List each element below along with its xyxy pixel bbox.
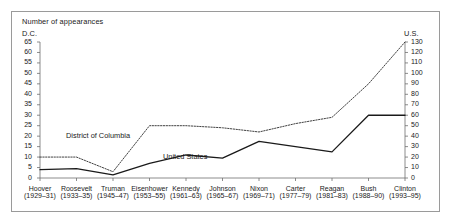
- series-label-dc: District of Columbia: [66, 131, 130, 140]
- chart-figure: Number of appearances D.C. U.S. District…: [0, 0, 451, 223]
- right-tick-label: 80: [411, 90, 431, 97]
- left-tick-label: 50: [12, 69, 32, 76]
- x-axis-label-years: (1993–95): [377, 192, 433, 199]
- right-tick-label: 90: [411, 79, 431, 86]
- x-axis-label-name: Carter: [286, 185, 305, 192]
- right-tick-label: 120: [411, 48, 431, 55]
- right-tick-label: 0: [411, 174, 431, 181]
- chart-frame: [11, 11, 440, 212]
- right-tick-label: 100: [411, 69, 431, 76]
- x-axis-label: Clinton(1993–95): [377, 185, 433, 199]
- left-tick-label: 10: [12, 153, 32, 160]
- right-tick-label: 70: [411, 100, 431, 107]
- series-label-us: United States: [163, 152, 207, 161]
- right-tick-label: 20: [411, 153, 431, 160]
- x-axis-label-name: Nixon: [250, 185, 268, 192]
- left-tick-label: 45: [12, 79, 32, 86]
- right-tick-label: 50: [411, 121, 431, 128]
- right-tick-label: 30: [411, 142, 431, 149]
- left-tick-label: 60: [12, 48, 32, 55]
- right-tick-label: 60: [411, 111, 431, 118]
- left-tick-label: 15: [12, 142, 32, 149]
- left-tick-label: 35: [12, 100, 32, 107]
- x-axis-label-name: Bush: [361, 185, 377, 192]
- left-tick-label: 20: [12, 132, 32, 139]
- x-axis-label-name: Clinton: [394, 185, 416, 192]
- left-tick-label: 25: [12, 121, 32, 128]
- left-tick-label: 55: [12, 58, 32, 65]
- left-tick-label: 30: [12, 111, 32, 118]
- right-tick-label: 130: [411, 38, 431, 45]
- right-tick-label: 40: [411, 132, 431, 139]
- left-tick-label: 5: [12, 163, 32, 170]
- left-tick-label: 0: [12, 174, 32, 181]
- chart-title: Number of appearances: [22, 17, 103, 26]
- right-tick-label: 10: [411, 163, 431, 170]
- left-tick-label: 65: [12, 38, 32, 45]
- left-tick-label: 40: [12, 90, 32, 97]
- right-tick-label: 110: [411, 58, 431, 65]
